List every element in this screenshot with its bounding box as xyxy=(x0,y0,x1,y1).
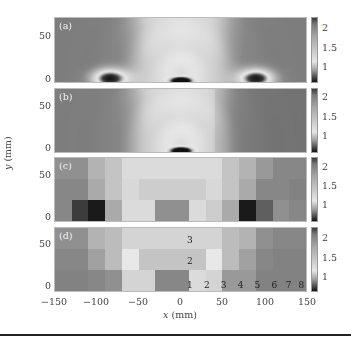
heatmap-cell xyxy=(139,179,156,200)
xtick-50: 50 xyxy=(216,296,228,307)
heatmap-d-grid xyxy=(55,228,306,291)
heatmap-cell xyxy=(122,228,139,249)
heatmap-cell xyxy=(105,270,122,291)
colorbar-c-tick-2: 2 xyxy=(322,162,328,172)
heatmap-cell xyxy=(72,270,89,291)
panel-a-label: (a) xyxy=(59,20,72,31)
heatmap-cell xyxy=(172,158,189,179)
heatmap-cell xyxy=(289,179,306,200)
heatmap-cell xyxy=(256,249,273,270)
heatmap-cell xyxy=(105,249,122,270)
heatmap-cell xyxy=(122,249,139,270)
xtick-0: 0 xyxy=(177,296,183,307)
heatmap-a-canvas xyxy=(55,18,306,82)
block-number-label: 8 xyxy=(298,280,304,290)
heatmap-cell xyxy=(55,249,72,270)
y-axis-label: y (mm) xyxy=(2,136,13,170)
panel-a-ytick-0: 0 xyxy=(45,74,51,84)
block-number-label: 7 xyxy=(286,280,292,290)
xtick-neg150: −150 xyxy=(41,296,67,307)
heatmap-cell xyxy=(206,158,223,179)
heatmap-cell xyxy=(256,158,273,179)
heatmap-cell xyxy=(289,228,306,249)
heatmap-cell xyxy=(222,249,239,270)
heatmap-cell xyxy=(289,249,306,270)
xtick-neg100: −100 xyxy=(83,296,109,307)
heatmap-cell xyxy=(172,179,189,200)
panel-c-ytick-0: 0 xyxy=(45,212,51,222)
heatmap-cell xyxy=(55,179,72,200)
panel-b-ytick-0: 0 xyxy=(45,143,51,153)
panel-d-ytick-50: 50 xyxy=(39,239,51,249)
heatmap-cell xyxy=(239,249,256,270)
heatmap-cell xyxy=(206,249,223,270)
heatmap-cell xyxy=(155,179,172,200)
colorbar-c-tick-1-5: 1.5 xyxy=(322,181,337,191)
heatmap-cell xyxy=(222,228,239,249)
heatmap-cell xyxy=(122,200,139,221)
colorbar-a xyxy=(311,17,318,83)
colorbar-d-tick-1-5: 1.5 xyxy=(322,253,337,263)
block-number-label: 6 xyxy=(271,280,277,290)
heatmap-cell xyxy=(72,228,89,249)
panel-d-label: (d) xyxy=(59,230,73,241)
colorbar-a-tick-1-5: 1.5 xyxy=(322,43,337,53)
block-number-label: 3 xyxy=(187,235,193,245)
heatmap-cell xyxy=(139,158,156,179)
heatmap-cell xyxy=(139,249,156,270)
y-axis-unit: (mm) xyxy=(2,136,13,164)
y-axis-var: y xyxy=(2,165,13,170)
colorbar-a-tick-1: 1 xyxy=(322,62,328,72)
heatmap-cell xyxy=(105,179,122,200)
heatmap-cell xyxy=(88,179,105,200)
heatmap-cell xyxy=(155,270,172,291)
colorbar-d-tick-1: 1 xyxy=(322,272,328,282)
heatmap-cell xyxy=(256,228,273,249)
colorbar-b-tick-1: 1 xyxy=(322,131,328,141)
heatmap-cell xyxy=(72,158,89,179)
heatmap-cell xyxy=(122,158,139,179)
bottom-rule-divider xyxy=(0,334,351,336)
heatmap-cell xyxy=(239,179,256,200)
heatmap-cell xyxy=(88,158,105,179)
heatmap-cell xyxy=(105,228,122,249)
heatmap-cell xyxy=(105,158,122,179)
panel-b-label: (b) xyxy=(59,91,73,102)
panel-d-ytick-0: 0 xyxy=(45,281,51,291)
heatmap-cell xyxy=(273,179,290,200)
colorbar-a-tick-2: 2 xyxy=(322,23,328,33)
heatmap-cell xyxy=(55,270,72,291)
block-number-label: 2 xyxy=(187,256,193,266)
heatmap-cell xyxy=(155,228,172,249)
heatmap-cell xyxy=(122,179,139,200)
block-number-label: 1 xyxy=(187,280,193,290)
heatmap-cell xyxy=(155,249,172,270)
heatmap-cell xyxy=(189,158,206,179)
heatmap-cell xyxy=(88,200,105,221)
heatmap-cell xyxy=(289,200,306,221)
x-axis-unit: (mm) xyxy=(168,309,196,320)
xtick-150: 150 xyxy=(298,296,316,307)
heatmap-cell xyxy=(273,228,290,249)
xtick-100: 100 xyxy=(256,296,274,307)
heatmap-cell xyxy=(206,179,223,200)
panel-d-heatmap: (d) 3212345678 xyxy=(54,227,307,292)
colorbar-b-tick-2: 2 xyxy=(322,92,328,102)
heatmap-c-grid xyxy=(55,158,306,221)
colorbar-c-tick-1: 1 xyxy=(322,200,328,210)
heatmap-cell xyxy=(139,228,156,249)
heatmap-b-canvas xyxy=(55,89,306,152)
panel-c-ytick-50: 50 xyxy=(39,170,51,180)
heatmap-cell xyxy=(72,200,89,221)
heatmap-cell xyxy=(273,200,290,221)
block-number-label: 3 xyxy=(221,280,227,290)
colorbar-d-tick-2: 2 xyxy=(322,233,328,243)
heatmap-cell xyxy=(189,179,206,200)
panel-c-heatmap: (c) xyxy=(54,157,307,222)
heatmap-cell xyxy=(155,158,172,179)
heatmap-cell xyxy=(189,200,206,221)
panel-a-heatmap: (a) xyxy=(54,17,307,83)
heatmap-cell xyxy=(88,249,105,270)
colorbar-c xyxy=(311,157,318,222)
heatmap-cell xyxy=(88,270,105,291)
